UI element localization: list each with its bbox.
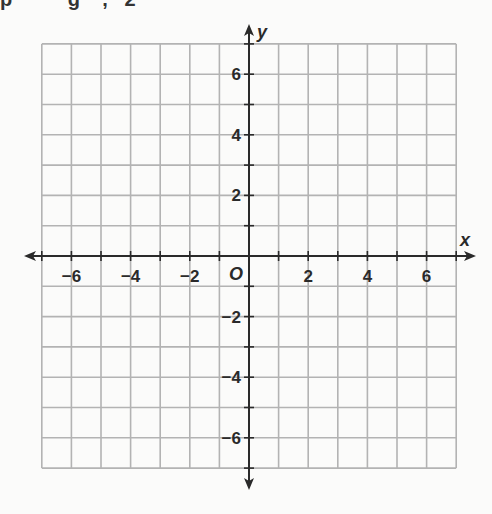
y-tick-label: −6 (222, 429, 241, 448)
coordinate-plane: −6−4−2246642−2−4−6 x y O (0, 0, 492, 514)
y-tick-label: −2 (222, 308, 241, 327)
x-axis-label: x (459, 230, 471, 250)
x-tick-label: 6 (422, 267, 431, 286)
x-tick-label: 2 (303, 267, 312, 286)
axes (24, 24, 476, 490)
x-tick-label: −4 (121, 267, 141, 286)
y-tick-label: −4 (222, 368, 242, 387)
y-axis-label: y (256, 22, 268, 42)
y-tick-label: 4 (232, 126, 242, 145)
x-tick-label: −2 (180, 267, 199, 286)
origin-label: O (229, 264, 243, 284)
x-tick-label: −6 (62, 267, 81, 286)
y-tick-label: 2 (232, 186, 241, 205)
x-tick-label: 4 (363, 267, 373, 286)
y-tick-label: 6 (232, 65, 241, 84)
